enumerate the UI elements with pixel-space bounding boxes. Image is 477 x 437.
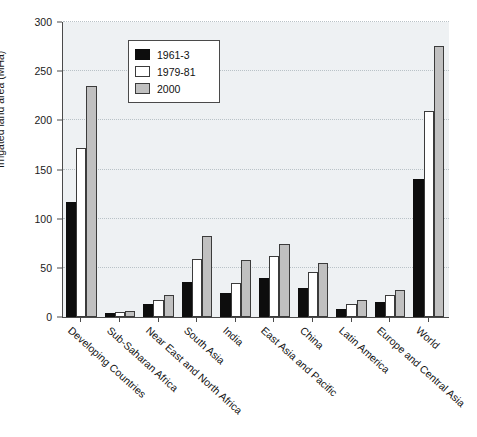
y-tick-label: 100 (12, 213, 52, 225)
legend-item: 1961-3 (135, 46, 213, 63)
x-tick-mark (119, 317, 120, 322)
bar (164, 295, 174, 317)
x-tick-mark (80, 317, 81, 322)
bar-group (413, 22, 444, 317)
bar-group (66, 22, 97, 317)
bar (298, 288, 308, 317)
y-tick-mark (57, 267, 62, 268)
bar (395, 290, 405, 317)
y-tick-label: 0 (12, 311, 52, 323)
x-tick-mark (389, 317, 390, 322)
y-tick-mark (57, 120, 62, 121)
legend: 1961-31979-812000 (128, 40, 220, 103)
bar (143, 304, 153, 317)
bar (182, 282, 192, 317)
legend-label: 2000 (157, 83, 180, 95)
bar-group (259, 22, 290, 317)
bar-group (298, 22, 329, 317)
legend-label: 1979-81 (157, 66, 196, 78)
bar (269, 256, 279, 317)
plot-area (62, 22, 449, 318)
bar-group (220, 22, 251, 317)
y-tick-label: 300 (12, 16, 52, 28)
legend-item: 1979-81 (135, 63, 213, 80)
bar (153, 300, 163, 317)
bar (192, 259, 202, 317)
x-axis-label: China (298, 324, 326, 351)
x-tick-mark (351, 317, 352, 322)
y-tick-mark (57, 218, 62, 219)
bars-layer (63, 22, 449, 317)
y-tick-label: 50 (12, 262, 52, 274)
bar (76, 148, 86, 317)
bar (336, 309, 346, 317)
bar (105, 313, 115, 317)
bar (202, 236, 212, 317)
bar-chart: Irrigated land area (MHa) 05010015020025… (0, 0, 477, 437)
bar (125, 311, 135, 317)
x-tick-mark (428, 317, 429, 322)
y-tick-label: 150 (12, 164, 52, 176)
legend-swatch-icon (135, 66, 150, 77)
bar-group (375, 22, 406, 317)
legend-label: 1961-3 (157, 49, 190, 61)
legend-item: 2000 (135, 80, 213, 97)
bar (241, 260, 251, 317)
bar (357, 300, 367, 317)
bar (385, 295, 395, 317)
x-tick-mark (273, 317, 274, 322)
bar (413, 179, 423, 317)
bar (86, 86, 96, 317)
x-axis-label: India (221, 324, 246, 348)
legend-swatch-icon (135, 83, 150, 94)
x-tick-mark (196, 317, 197, 322)
bar (231, 283, 241, 317)
y-tick-mark (57, 22, 62, 23)
bar (220, 293, 230, 317)
bar (318, 263, 328, 317)
bar (308, 272, 318, 317)
y-tick-label: 200 (12, 114, 52, 126)
bar (259, 278, 269, 317)
x-tick-mark (312, 317, 313, 322)
bar-group (336, 22, 367, 317)
x-axis-label: Sub-Saharan Africa (105, 324, 181, 394)
legend-swatch-icon (135, 49, 150, 60)
y-axis-title: Irrigated land area (MHa) (0, 51, 6, 168)
y-tick-mark (57, 169, 62, 170)
x-axis-label: World (414, 324, 442, 351)
x-tick-mark (158, 317, 159, 322)
x-tick-mark (235, 317, 236, 322)
bar (66, 202, 76, 317)
bar (375, 302, 385, 317)
bar (279, 244, 289, 317)
y-tick-label: 250 (12, 65, 52, 77)
bar (346, 304, 356, 317)
y-tick-mark (57, 317, 62, 318)
bar (424, 111, 434, 317)
y-tick-mark (57, 71, 62, 72)
bar (434, 46, 444, 317)
